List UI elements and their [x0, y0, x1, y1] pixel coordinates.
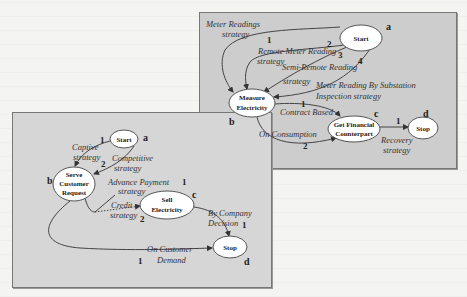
label-remote-meter-2: strategy	[257, 56, 285, 66]
svg-text:Stop: Stop	[416, 125, 430, 133]
tag-get-financial-counterpart: c	[374, 108, 379, 119]
label-remote-meter-1: Remote Meter Reading	[257, 46, 336, 56]
edge-serve-to-branch	[85, 198, 95, 212]
svg-text:Start: Start	[353, 35, 369, 43]
top-diagram: Meter Readings strategy 1 Remote Meter R…	[205, 19, 438, 155]
node-sell-electricity: Sell Electricity	[140, 191, 194, 219]
label-substation-2: Inspection strategy	[315, 91, 381, 101]
tag-stop-top: d	[423, 108, 429, 119]
num-competitive: 2	[101, 159, 106, 169]
label-credit-2: strategy	[110, 210, 138, 220]
label-advance-payment-2: strategy	[118, 186, 146, 196]
svg-text:Measure: Measure	[239, 94, 265, 102]
num-contract-based: 1	[301, 99, 306, 109]
process-maps: Meter Readings strategy 1 Remote Meter R…	[0, 0, 467, 297]
svg-text:Request: Request	[62, 189, 87, 197]
num-substation: 4	[358, 56, 363, 66]
svg-text:Serve: Serve	[66, 171, 83, 179]
svg-text:Start: Start	[116, 136, 132, 144]
label-semi-remote-2: strategy	[283, 76, 311, 86]
label-on-consumption: On Consumption	[259, 129, 317, 139]
num-advance-payment: 1	[182, 177, 187, 187]
node-stop-bottom: Stop	[213, 236, 247, 258]
num-remote-meter: 2	[327, 39, 332, 49]
node-measure-electricity: Measure Electricity	[229, 89, 275, 117]
label-captive-2: strategy	[73, 152, 101, 162]
svg-text:Electricity: Electricity	[236, 104, 268, 112]
label-substation-1: Meter Reading By Substation	[315, 80, 416, 90]
label-competitive-2: strategy	[114, 163, 142, 173]
svg-text:Electricity: Electricity	[151, 206, 183, 214]
svg-text:Get Financial: Get Financial	[334, 121, 375, 129]
label-credit-1: Credit	[111, 200, 133, 210]
svg-text:Stop: Stop	[223, 244, 237, 252]
tag-serve-customer-request: b	[47, 175, 53, 186]
svg-text:Counterpart: Counterpart	[335, 130, 373, 138]
num-captive: 1	[100, 135, 105, 145]
node-stop-top: Stop	[408, 117, 438, 139]
num-on-consumption: 2	[303, 141, 308, 151]
tag-sell-electricity: c	[192, 189, 197, 200]
node-start-top: Start	[340, 25, 382, 51]
tag-measure-electricity: b	[229, 116, 235, 127]
label-recovery-2: strategy	[383, 145, 411, 155]
tag-stop-bottom: d	[244, 256, 250, 267]
label-competitive-1: Competitive	[112, 153, 153, 163]
label-by-company-2: Decision	[207, 218, 238, 228]
num-on-customer: 1	[138, 256, 143, 266]
label-meter-readings-1: Meter Readings	[205, 19, 261, 29]
label-by-company-1: By Company	[208, 208, 252, 218]
label-contract-based: Contract Based	[280, 107, 334, 117]
bottom-diagram: Captive strategy 1 Competitive strategy …	[47, 130, 252, 267]
svg-text:Sell: Sell	[162, 196, 173, 204]
num-recovery: 1	[396, 116, 401, 126]
tag-start-top: a	[386, 21, 391, 32]
label-on-customer-1: On Customer	[147, 244, 193, 254]
num-semi-remote: 3	[338, 50, 343, 60]
tag-start-bottom: a	[143, 132, 148, 143]
node-serve-customer-request: Serve Customer Request	[53, 167, 95, 201]
num-by-company: 1	[242, 220, 247, 230]
label-semi-remote-1: Semi-Remote Reading	[282, 62, 357, 72]
label-meter-readings-2: strategy	[222, 29, 250, 39]
num-credit: 2	[140, 214, 145, 224]
label-on-customer-2: Demand	[156, 255, 187, 265]
label-recovery-1: Recovery	[380, 135, 413, 145]
svg-text:Customer: Customer	[59, 180, 89, 188]
node-start-bottom: Start	[110, 130, 138, 148]
node-get-financial-counterpart: Get Financial Counterpart	[328, 116, 380, 142]
num-meter-readings: 1	[267, 35, 272, 45]
label-captive-1: Captive	[72, 142, 99, 152]
